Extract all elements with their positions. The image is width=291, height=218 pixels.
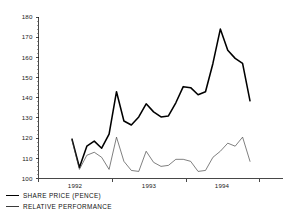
x-tick-label: 1993 (142, 182, 157, 189)
legend-line-icon-relative-performance (6, 202, 19, 211)
share-price-chart: 100110120130140150160170180 199219931994… (0, 0, 291, 218)
y-tick-label: 170 (22, 33, 33, 40)
y-axis: 100110120130140150160170180 (22, 13, 39, 182)
y-tick-label: 110 (22, 155, 33, 162)
legend-label-share-price: SHARE PRICE (PENCE) (23, 191, 101, 200)
series-share-price-line (72, 29, 250, 167)
chart-series-group (72, 29, 250, 171)
legend-label-relative-performance: RELATIVE PERFORMANCE (23, 202, 112, 211)
chart-plot-area: 100110120130140150160170180 199219931994 (0, 0, 291, 218)
x-axis-tick-labels: 199219931994 (68, 182, 230, 189)
y-axis-tick-labels: 100110120130140150160170180 (22, 13, 33, 182)
y-tick-label: 180 (22, 13, 33, 20)
y-tick-label: 140 (22, 94, 33, 101)
x-axis: 199219931994 (39, 179, 284, 190)
series-relative-performance-line (72, 137, 250, 171)
y-tick-label: 130 (22, 114, 33, 121)
y-tick-label: 100 (22, 175, 33, 182)
chart-legend: SHARE PRICE (PENCE) RELATIVE PERFORMANCE (6, 190, 206, 212)
legend-item-share-price: SHARE PRICE (PENCE) (6, 190, 206, 201)
x-tick-label: 1994 (215, 182, 230, 189)
legend-line-icon-share-price (6, 191, 19, 200)
y-tick-label: 120 (22, 134, 33, 141)
x-tick-label: 1992 (68, 182, 83, 189)
y-tick-label: 150 (22, 74, 33, 81)
y-tick-label: 160 (22, 54, 33, 61)
legend-item-relative-performance: RELATIVE PERFORMANCE (6, 201, 206, 212)
